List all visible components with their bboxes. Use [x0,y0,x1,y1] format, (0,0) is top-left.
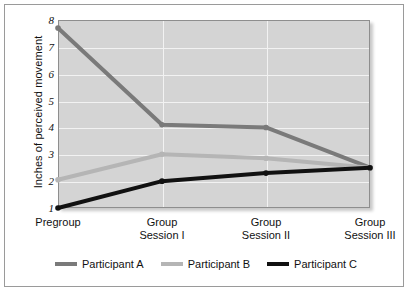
data-point [367,165,373,171]
legend-label: Participant C [294,258,357,270]
x-tick-label-line: Session II [221,229,311,242]
data-point [55,177,61,183]
legend-swatch-icon [267,262,289,266]
x-tick-label-line: Session I [117,229,207,242]
series-line [58,28,370,168]
data-point [159,122,165,128]
legend-swatch-icon [161,262,183,266]
x-tick-label: GroupSession II [221,216,311,241]
series-layer [0,0,412,295]
data-point [263,125,269,131]
data-point [55,205,61,211]
x-tick-label: GroupSession III [325,216,412,241]
x-tick-label-line: Group [221,216,311,229]
legend-label: Participant A [82,258,144,270]
x-tick-label: GroupSession I [117,216,207,241]
data-point [263,170,269,176]
data-point [159,151,165,157]
x-tick-label-line: Group [117,216,207,229]
x-tick-label-line: Pregroup [13,216,103,229]
legend-swatch-icon [55,262,77,266]
legend-label: Participant B [188,258,250,270]
x-tick-label-line: Group [325,216,412,229]
legend-item[interactable]: Participant A [55,258,144,270]
chart-legend: Participant AParticipant BParticipant C [0,258,412,270]
x-tick-label: Pregroup [13,216,103,229]
x-tick-label-line: Session III [325,229,412,242]
legend-item[interactable]: Participant B [161,258,250,270]
series-line [58,168,370,208]
data-point [159,178,165,184]
line-chart: Inches of perceived movement 87654321 Pr… [0,0,412,295]
data-point [263,156,269,162]
legend-item[interactable]: Participant C [267,258,357,270]
data-point [55,25,61,31]
